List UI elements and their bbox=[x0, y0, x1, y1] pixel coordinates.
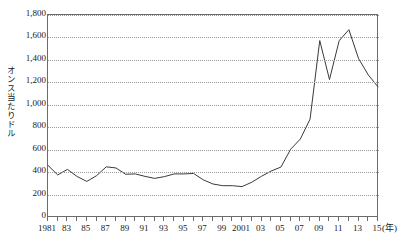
x-axis-tick bbox=[299, 217, 300, 221]
x-axis-tick bbox=[154, 217, 155, 221]
y-axis-tick-label: 600 bbox=[10, 144, 46, 153]
x-axis-tick bbox=[241, 217, 242, 221]
x-axis-tick bbox=[173, 217, 174, 221]
x-axis-tick bbox=[290, 217, 291, 221]
price-line-series bbox=[48, 15, 379, 218]
gridline bbox=[48, 172, 379, 173]
x-axis-tick bbox=[193, 217, 194, 221]
x-axis-tick bbox=[66, 217, 67, 221]
y-axis-tick-label: 800 bbox=[10, 121, 46, 130]
x-axis-tick bbox=[144, 217, 145, 221]
y-axis-tick-label: 200 bbox=[10, 189, 46, 198]
x-axis-tick-label: 15 bbox=[363, 223, 391, 233]
x-axis-tick bbox=[76, 217, 77, 221]
gridline bbox=[48, 60, 379, 61]
y-axis-tick-label: 1,600 bbox=[10, 31, 46, 40]
x-axis-tick bbox=[47, 217, 48, 221]
y-axis-tick-label: 1,400 bbox=[10, 54, 46, 63]
gold-price-chart: オンス当たりドル 02004006008001,0001,2001,4001,6… bbox=[0, 0, 409, 244]
x-axis-ticks bbox=[47, 217, 378, 222]
x-axis-tick bbox=[280, 217, 281, 221]
y-axis-tick-label: 1,000 bbox=[10, 99, 46, 108]
x-axis-tick bbox=[251, 217, 252, 221]
gridline bbox=[48, 105, 379, 106]
x-axis-tick bbox=[231, 217, 232, 221]
x-axis-tick bbox=[348, 217, 349, 221]
x-axis-tick bbox=[96, 217, 97, 221]
gridline bbox=[48, 195, 379, 196]
x-axis-tick bbox=[270, 217, 271, 221]
x-axis-tick bbox=[163, 217, 164, 221]
gridline bbox=[48, 127, 379, 128]
x-axis-tick bbox=[86, 217, 87, 221]
x-axis-tick bbox=[105, 217, 106, 221]
y-axis-tick-label: 400 bbox=[10, 166, 46, 175]
y-axis-tick-label: 1,800 bbox=[10, 9, 46, 18]
plot-area bbox=[47, 14, 378, 217]
x-axis-tick bbox=[57, 217, 58, 221]
x-axis-tick bbox=[377, 217, 378, 221]
x-axis-tick-labels: (年) 198183858789919395979920010305070911… bbox=[0, 223, 409, 237]
gridline bbox=[48, 150, 379, 151]
gridline bbox=[48, 15, 379, 16]
gridline bbox=[48, 82, 379, 83]
x-axis-tick bbox=[338, 217, 339, 221]
y-axis-tick-label: 1,200 bbox=[10, 76, 46, 85]
x-axis-tick bbox=[358, 217, 359, 221]
x-axis-tick bbox=[202, 217, 203, 221]
x-axis-tick bbox=[134, 217, 135, 221]
x-axis-tick bbox=[319, 217, 320, 221]
x-axis-tick bbox=[115, 217, 116, 221]
x-axis-tick bbox=[309, 217, 310, 221]
x-axis-tick bbox=[183, 217, 184, 221]
y-axis-tick-label: 0 bbox=[10, 211, 46, 220]
x-axis-tick bbox=[367, 217, 368, 221]
x-axis-tick bbox=[222, 217, 223, 221]
x-axis-tick bbox=[328, 217, 329, 221]
y-axis-tick-labels: 02004006008001,0001,2001,4001,6001,800 bbox=[6, 0, 46, 244]
gridline bbox=[48, 37, 379, 38]
x-axis-tick bbox=[261, 217, 262, 221]
x-axis-tick bbox=[212, 217, 213, 221]
x-axis-tick bbox=[125, 217, 126, 221]
